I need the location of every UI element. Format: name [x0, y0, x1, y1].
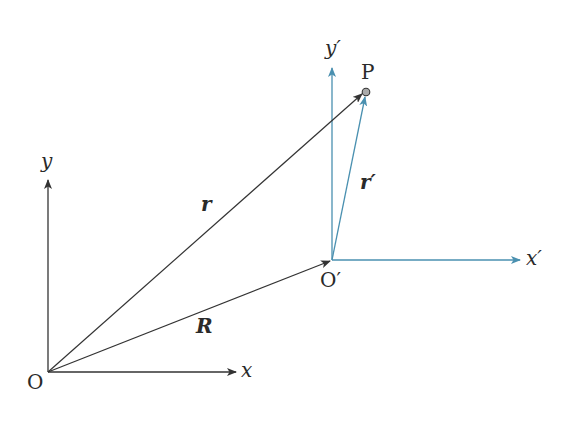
vector-r-prime-label: r′	[360, 170, 377, 194]
x-prime-axis-label: x′	[526, 246, 542, 270]
vector-R	[48, 261, 330, 372]
reference-frames-diagram: O x y O′ x′ y′ P r R r′	[0, 0, 579, 424]
vector-r-label: r	[201, 192, 213, 216]
x-axis-label: x	[241, 358, 252, 382]
vector-R-label: R	[195, 314, 213, 338]
origin-O-prime-label: O′	[320, 268, 341, 292]
point-P-label: P	[361, 60, 374, 84]
y-prime-axis-label: y′	[324, 36, 341, 60]
origin-O-label: O	[27, 370, 43, 394]
y-axis-label: y	[40, 149, 53, 173]
point-P-marker	[362, 88, 370, 96]
